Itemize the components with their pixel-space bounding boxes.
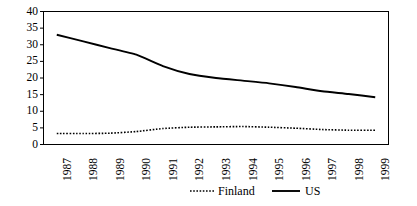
y-axis-ticks (40, 12, 44, 145)
x-axis-tick-label: 1998 (354, 158, 366, 181)
x-axis-tick-label: 1999 (380, 158, 392, 181)
legend-item-us: US (305, 185, 320, 197)
data-series-layer (57, 35, 375, 134)
line-chart: 0510152025303540 19871988198919901991199… (0, 0, 417, 206)
y-axis-tick-label: 10 (16, 105, 38, 117)
series-line-finland (57, 127, 375, 134)
y-axis-tick-label: 30 (16, 39, 38, 51)
y-axis-tick-label: 15 (16, 89, 38, 101)
x-axis-tick-label: 1994 (248, 158, 260, 181)
x-axis-tick-label: 1993 (221, 158, 233, 181)
x-axis-tick-label: 1997 (327, 158, 339, 181)
x-axis-tick-label: 1987 (62, 158, 74, 181)
y-axis-tick-label: 20 (16, 72, 38, 84)
x-axis-tick-label: 1990 (141, 158, 153, 181)
y-axis-tick-label: 35 (16, 22, 38, 34)
x-axis-tick-label: 1995 (274, 158, 286, 181)
x-axis-tick-label: 1996 (301, 158, 313, 181)
y-axis-tick-label: 5 (16, 122, 38, 134)
y-axis-tick-label: 0 (16, 139, 38, 151)
x-axis-tick-label: 1992 (194, 158, 206, 181)
x-axis-tick-label: 1988 (88, 158, 100, 181)
legend-item-finland: Finland (218, 185, 255, 197)
x-axis-tick-label: 1991 (168, 158, 180, 181)
series-line-us (57, 35, 375, 98)
y-axis-tick-label: 25 (16, 55, 38, 67)
y-axis-tick-label: 40 (16, 6, 38, 18)
x-axis-tick-label: 1989 (115, 158, 127, 181)
